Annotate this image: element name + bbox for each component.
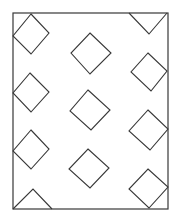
diamond-right-2 xyxy=(129,110,168,150)
outer-frame xyxy=(13,13,168,209)
diamond-right-3 xyxy=(129,169,168,208)
diamond-right-1 xyxy=(131,53,167,91)
diamond-left-3 xyxy=(13,130,49,169)
diamond-shapes-group xyxy=(13,13,168,209)
diamond-mid-2 xyxy=(70,90,110,130)
diamond-pattern-diagram xyxy=(0,0,180,219)
diagram-svg xyxy=(0,0,180,219)
diamond-mid-3 xyxy=(69,149,109,188)
diamond-left-2 xyxy=(13,73,49,112)
triangle-top-right xyxy=(129,13,167,34)
diamond-left-1 xyxy=(13,14,49,54)
diamond-mid-1 xyxy=(71,33,111,74)
triangle-bottom-left xyxy=(13,189,52,209)
